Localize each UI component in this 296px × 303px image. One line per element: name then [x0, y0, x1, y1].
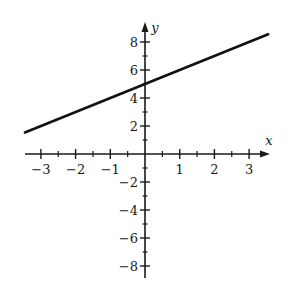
x-tick-label: 2	[210, 162, 218, 177]
x-axis-arrow-icon	[260, 151, 270, 158]
axes	[25, 22, 270, 278]
y-tick-label: −8	[119, 259, 138, 274]
tick-labels: −3−2−1123−8−6−4−22468xy	[31, 20, 273, 274]
y-tick-label: 2	[130, 119, 138, 134]
y-tick-label: −6	[119, 231, 138, 246]
x-tick-label: 3	[245, 162, 253, 177]
series-lines	[25, 34, 268, 132]
y-tick-label: −4	[119, 203, 138, 218]
y-tick-label: 4	[130, 91, 138, 106]
chart: −3−2−1123−8−6−4−22468xy	[0, 0, 296, 303]
y-tick-label: −2	[119, 175, 138, 190]
series-line	[25, 34, 268, 132]
x-tick-label: −3	[31, 162, 50, 177]
y-tick-label: 6	[130, 63, 138, 78]
y-axis-label: y	[150, 20, 159, 35]
y-axis-arrow-icon	[142, 22, 149, 32]
y-tick-label: 8	[130, 35, 138, 50]
x-tick-label: −1	[101, 162, 120, 177]
x-axis-label: x	[265, 133, 273, 148]
x-tick-label: −2	[66, 162, 85, 177]
x-tick-label: 1	[176, 162, 184, 177]
